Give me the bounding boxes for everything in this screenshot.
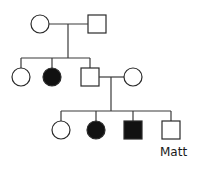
gen3-male-unaffected-matt [162, 121, 180, 139]
gen2-female-affected [43, 68, 61, 86]
gen2-female-unaffected [12, 68, 30, 86]
matt-label: Matt [160, 146, 187, 158]
gen2-spouse-female-unaffected [124, 68, 142, 86]
gen1-male-unaffected [88, 15, 106, 33]
gen3-male-affected [124, 121, 142, 139]
gen3-female-affected [87, 121, 105, 139]
gen3-female-unaffected [52, 121, 70, 139]
gen1-female-unaffected [31, 15, 49, 33]
gen2-male-unaffected [81, 68, 99, 86]
